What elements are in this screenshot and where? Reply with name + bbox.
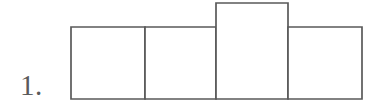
rectangle-4 <box>288 27 362 99</box>
rectangles-svg <box>0 0 386 107</box>
rectangle-2 <box>145 27 216 99</box>
rectangle-3-tall <box>216 3 288 99</box>
diagram-canvas <box>0 0 386 107</box>
rectangle-1 <box>71 27 145 99</box>
figure-container: 1. <box>0 0 386 107</box>
